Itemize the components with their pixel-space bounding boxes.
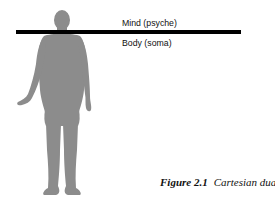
figure-title: Cartesian dualism bbox=[214, 176, 275, 188]
figure-number: Figure 2.1 bbox=[160, 176, 208, 188]
cartesian-dualism-figure: Mind (psyche) Body (soma) Figure 2.1Cart… bbox=[0, 0, 275, 203]
figure-caption: Figure 2.1Cartesian dualism bbox=[160, 176, 275, 188]
body-label: Body (soma) bbox=[122, 37, 172, 48]
mind-body-divider-line bbox=[16, 30, 241, 34]
mind-label: Mind (psyche) bbox=[122, 17, 177, 28]
